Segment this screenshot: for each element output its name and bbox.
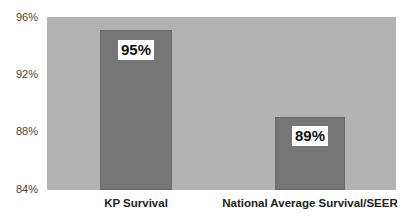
data-label-national-average: 89% <box>292 126 328 146</box>
data-label-kp-survival: 95% <box>118 40 154 60</box>
y-tick-96: 96% <box>2 11 38 23</box>
x-label-national-average: National Average Survival/SEER <box>222 197 398 209</box>
y-tick-92: 92% <box>2 68 38 80</box>
y-tick-88: 88% <box>2 125 38 137</box>
y-tick-84: 84% <box>2 183 38 195</box>
x-label-kp-survival: KP Survival <box>104 197 168 209</box>
